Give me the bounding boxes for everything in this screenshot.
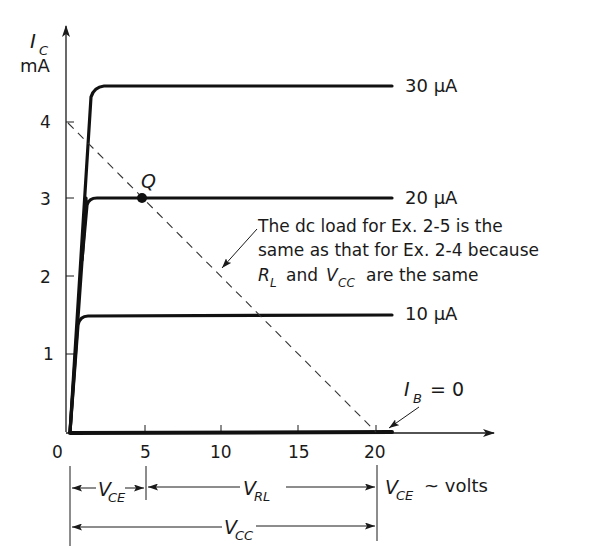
x-tick-10: 10 bbox=[210, 442, 232, 462]
y-axis-unit: mA bbox=[20, 55, 51, 76]
q-point-label: Q bbox=[141, 170, 156, 192]
svg-text:are the same: are the same bbox=[366, 265, 479, 285]
y-axis: I C mA 1 2 3 4 bbox=[20, 26, 74, 432]
y-tick-3: 3 bbox=[40, 189, 51, 209]
svg-text:I: I bbox=[404, 378, 410, 400]
ib-zero-label: I B = 0 bbox=[389, 378, 464, 428]
label-30ua: 30 μA bbox=[405, 75, 458, 96]
y-tick-1: 1 bbox=[43, 344, 54, 364]
vce-dim-sub: CE bbox=[108, 490, 126, 505]
x-tick-5: 5 bbox=[140, 442, 151, 462]
y-tick-4: 4 bbox=[40, 112, 51, 132]
load-line-annotation: The dc load for Ex. 2-5 is the same as t… bbox=[222, 216, 539, 290]
x-axis-unit: ~ volts bbox=[424, 475, 488, 496]
transistor-characteristics-figure: I C mA 1 2 3 4 0 5 10 15 20 30 μA 20 μA … bbox=[0, 0, 594, 551]
annotation-line-2: same as that for Ex. 2-4 because bbox=[258, 240, 539, 260]
x-tick-0: 0 bbox=[52, 442, 63, 462]
label-20ua: 20 μA bbox=[405, 187, 458, 208]
curve-ib-0 bbox=[70, 432, 392, 433]
x-axis-subscript: CE bbox=[396, 488, 414, 503]
x-tick-15: 15 bbox=[288, 442, 310, 462]
svg-text:= 0: = 0 bbox=[430, 378, 464, 400]
y-axis-symbol: I bbox=[30, 29, 36, 53]
svg-text:R: R bbox=[258, 265, 270, 285]
vcc-dim-sub: CC bbox=[235, 528, 254, 543]
svg-text:CC: CC bbox=[338, 276, 355, 290]
curve-ib-10 bbox=[70, 315, 392, 432]
x-tick-20: 20 bbox=[364, 442, 386, 462]
y-tick-2: 2 bbox=[40, 267, 51, 287]
annotation-line-1: The dc load for Ex. 2-5 is the bbox=[257, 216, 503, 236]
svg-text:L: L bbox=[270, 276, 277, 290]
dimension-labels: V CE V RL V CC V CE ~ volts bbox=[98, 475, 488, 543]
vrl-dim-sub: RL bbox=[254, 489, 270, 504]
label-10ua: 10 μA bbox=[405, 303, 458, 324]
svg-text:B: B bbox=[413, 391, 422, 406]
svg-text:and: and bbox=[286, 265, 318, 285]
